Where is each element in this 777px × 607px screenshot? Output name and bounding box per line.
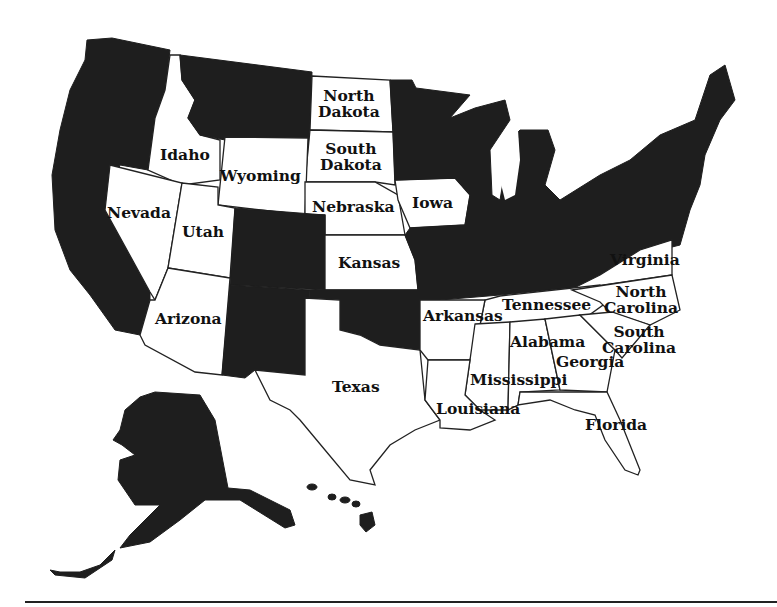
label-north-carolina: North Carolina (604, 284, 678, 316)
label-virginia: Virginia (610, 252, 680, 268)
label-georgia: Georgia (556, 354, 624, 370)
label-nebraska: Nebraska (312, 199, 395, 215)
label-tennessee: Tennessee (502, 297, 591, 313)
state-colorado (230, 208, 325, 290)
state-new-mexico (222, 285, 310, 378)
state-alaska (113, 392, 295, 548)
label-idaho: Idaho (160, 147, 210, 163)
label-north-carolina-line2: Carolina (604, 300, 678, 316)
state-hawaii (307, 484, 375, 532)
label-south-dakota: South Dakota (320, 141, 382, 173)
state-montana (180, 55, 312, 145)
label-florida: Florida (585, 417, 647, 433)
label-kansas: Kansas (338, 255, 400, 271)
label-wyoming: Wyoming (220, 168, 301, 184)
label-iowa: Iowa (412, 195, 453, 211)
label-utah: Utah (182, 224, 224, 240)
label-mississippi: Mississippi (470, 372, 567, 388)
label-arkansas: Arkansas (423, 308, 503, 324)
bottom-divider (25, 601, 777, 603)
label-north-dakota: North Dakota (318, 88, 380, 120)
label-south-dakota-line2: Dakota (320, 157, 382, 173)
label-arizona: Arizona (155, 311, 222, 327)
label-louisiana: Louisiana (436, 401, 520, 417)
label-north-dakota-line2: Dakota (318, 104, 380, 120)
label-alabama: Alabama (510, 334, 585, 350)
label-nevada: Nevada (107, 205, 171, 221)
label-texas: Texas (332, 379, 380, 395)
alaska-aleutians (50, 550, 115, 578)
